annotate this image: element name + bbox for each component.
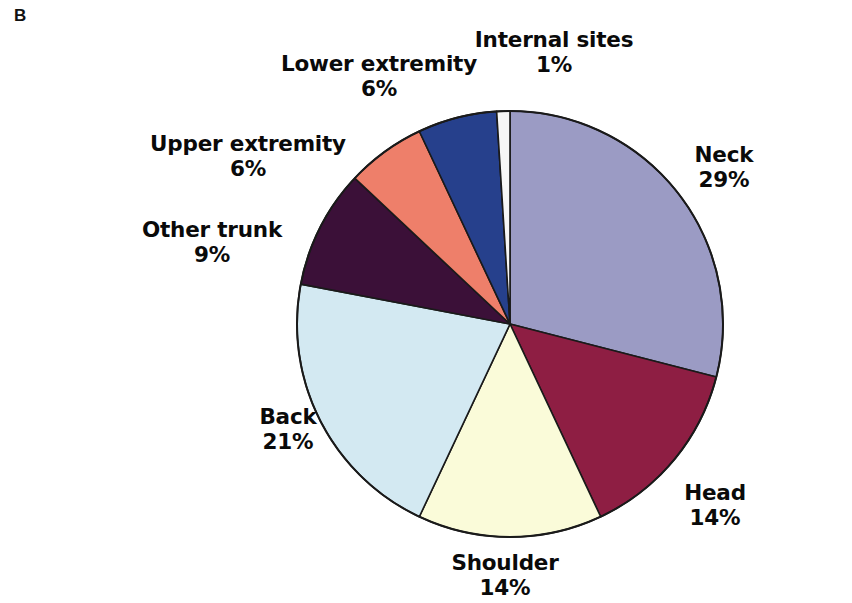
pie-label-upper-extremity: Upper extremity 6% xyxy=(147,132,349,182)
pie-label-internal-sites: Internal sites 1% xyxy=(466,28,642,78)
pie-label-other-trunk-value: 9% xyxy=(138,243,286,268)
pie-label-other-trunk: Other trunk 9% xyxy=(138,218,286,268)
figure-panel-b: B Internal sites 1% Lower extremity 6% U… xyxy=(0,0,852,603)
pie-label-lower-extremity-value: 6% xyxy=(273,77,485,102)
pie-label-head-value: 14% xyxy=(673,506,757,531)
pie-label-lower-extremity: Lower extremity 6% xyxy=(273,52,485,102)
pie-label-shoulder: Shoulder 14% xyxy=(443,551,567,601)
pie-label-back: Back 21% xyxy=(252,405,324,455)
pie-label-lower-extremity-name: Lower extremity xyxy=(273,52,485,77)
pie-slice-group xyxy=(297,111,723,537)
pie-label-back-name: Back xyxy=(252,405,324,430)
pie-label-internal-sites-value: 1% xyxy=(466,53,642,78)
pie-label-head-name: Head xyxy=(673,481,757,506)
pie-label-back-value: 21% xyxy=(252,430,324,455)
pie-label-internal-sites-name: Internal sites xyxy=(466,28,642,53)
pie-label-upper-extremity-value: 6% xyxy=(147,157,349,182)
pie-label-shoulder-name: Shoulder xyxy=(443,551,567,576)
pie-label-neck-name: Neck xyxy=(678,143,770,168)
pie-label-other-trunk-name: Other trunk xyxy=(138,218,286,243)
pie-label-head: Head 14% xyxy=(673,481,757,531)
pie-label-neck-value: 29% xyxy=(678,168,770,193)
pie-label-shoulder-value: 14% xyxy=(443,576,567,601)
pie-label-upper-extremity-name: Upper extremity xyxy=(147,132,349,157)
pie-label-neck: Neck 29% xyxy=(678,143,770,193)
